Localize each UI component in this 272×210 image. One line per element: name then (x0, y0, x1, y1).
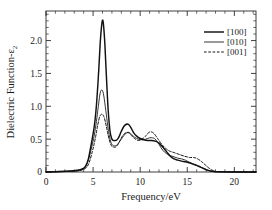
y-tick-label: 1.5 (30, 69, 42, 79)
y-tick-label: 2.0 (30, 36, 42, 46)
legend-label: [100] (227, 27, 247, 37)
legend-label: [010] (227, 37, 247, 47)
y-tick-label: 0.5 (30, 135, 42, 145)
figure-container: 05101520 00.51.01.52.0 Frequency/eV Diel… (0, 0, 272, 210)
y-tick-label: 0 (37, 167, 42, 177)
legend-label: [001] (227, 47, 247, 57)
x-tick-label: 10 (135, 177, 145, 187)
x-axis-title: Frequency/eV (121, 191, 181, 202)
y-axis-title-subscript: 2 (11, 45, 19, 49)
y-tick-label: 1.0 (30, 102, 42, 112)
x-tick-label: 0 (44, 177, 49, 187)
y-axis-title-main: Dielectric Function-ε (5, 49, 16, 139)
dielectric-function-chart: 05101520 00.51.01.52.0 Frequency/eV Diel… (0, 0, 272, 210)
x-tick-label: 5 (91, 177, 96, 187)
x-tick-label: 15 (183, 177, 193, 187)
x-tick-label: 20 (230, 177, 240, 187)
